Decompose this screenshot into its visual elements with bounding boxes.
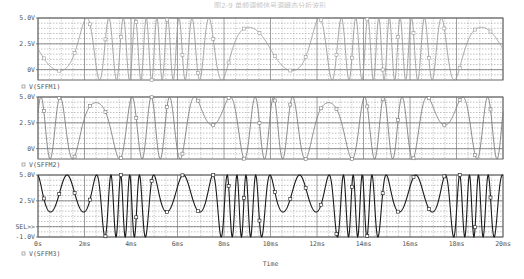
trace-marker xyxy=(73,155,76,158)
trace-marker xyxy=(196,99,199,102)
y-tick-label: SEL>> xyxy=(15,223,35,231)
trace-marker xyxy=(181,53,184,56)
x-tick-label: 6ms xyxy=(172,240,184,248)
trace-marker xyxy=(89,105,92,108)
trace-marker xyxy=(258,122,261,125)
trace-marker xyxy=(489,108,492,111)
y-tick-label: 5.0V xyxy=(19,14,35,22)
trace-marker xyxy=(458,99,461,102)
trace-marker xyxy=(243,157,246,160)
trace-marker xyxy=(397,119,400,122)
trace-marker xyxy=(273,99,276,102)
trace-marker xyxy=(304,157,307,160)
trace-marker xyxy=(42,109,45,112)
trace-marker xyxy=(427,207,430,210)
x-tick-label: 12ms xyxy=(309,240,325,248)
trace-marker xyxy=(381,68,384,71)
x-tick-label: 20ms xyxy=(495,240,511,248)
trace-marker xyxy=(335,53,338,56)
trace-marker xyxy=(397,210,400,213)
trace-marker xyxy=(289,103,292,106)
y-tick-label: 2.5V xyxy=(19,40,35,48)
trace-marker xyxy=(119,156,122,159)
trace-marker xyxy=(320,203,323,206)
legend-label[interactable]: V(SFFM1) xyxy=(29,83,60,91)
trace-marker xyxy=(104,38,107,41)
trace-marker xyxy=(150,96,153,99)
trace-marker xyxy=(89,23,92,26)
trace-marker xyxy=(381,192,384,195)
trace-marker xyxy=(135,20,138,23)
trace-marker xyxy=(258,31,261,34)
legend-marker-icon xyxy=(22,252,25,255)
y-tick-label: 5.0V xyxy=(19,93,35,101)
trace-marker xyxy=(181,152,184,155)
trace-marker xyxy=(350,157,353,160)
trace-marker xyxy=(350,185,353,188)
trace-marker xyxy=(320,18,323,21)
trace-marker xyxy=(412,157,415,160)
trace-marker xyxy=(243,27,246,30)
trace-marker xyxy=(427,57,430,60)
x-tick-label: 4ms xyxy=(125,240,137,248)
x-tick-label: 16ms xyxy=(402,240,418,248)
trace-marker xyxy=(227,61,230,64)
trace-marker xyxy=(489,30,492,33)
trace-marker xyxy=(119,174,122,177)
trace-marker xyxy=(397,35,400,38)
legend-label[interactable]: V(SFFM3) xyxy=(29,250,60,258)
trace-marker xyxy=(104,235,107,238)
trace-marker xyxy=(135,117,138,120)
trace-marker xyxy=(212,124,215,127)
trace-marker xyxy=(58,192,61,195)
trace-marker xyxy=(89,198,92,201)
trace-marker xyxy=(304,186,307,189)
trace-marker xyxy=(73,191,76,194)
trace-marker xyxy=(258,219,261,222)
trace-marker xyxy=(412,176,415,179)
x-tick-label: 10ms xyxy=(263,240,279,248)
x-tick-label: 8ms xyxy=(218,240,230,248)
trace-marker xyxy=(273,55,276,58)
x-tick-label: 2ms xyxy=(79,240,91,248)
trace-marker xyxy=(166,18,169,21)
trace-marker xyxy=(243,196,246,199)
trace-marker xyxy=(458,66,461,69)
x-tick-label: 14ms xyxy=(356,240,372,248)
trace-marker xyxy=(304,55,307,58)
trace-marker xyxy=(366,234,369,237)
trace-marker xyxy=(335,107,338,110)
trace-marker xyxy=(150,180,153,183)
trace-marker xyxy=(474,28,477,31)
trace-marker xyxy=(212,37,215,40)
trace-marker xyxy=(427,97,430,100)
trace-marker xyxy=(289,197,292,200)
trace-marker xyxy=(166,211,169,214)
trace-marker xyxy=(73,52,76,55)
trace-marker xyxy=(196,209,199,212)
trace-marker xyxy=(289,69,292,72)
trace-marker xyxy=(104,110,107,113)
legend-label[interactable]: V(SFFM2) xyxy=(29,161,60,169)
trace-marker xyxy=(335,232,338,235)
trace-marker xyxy=(474,153,477,156)
trace-marker xyxy=(366,18,369,21)
trace-marker xyxy=(273,191,276,194)
trace-marker xyxy=(196,71,199,74)
x-axis-label: Time xyxy=(263,260,279,268)
trace-marker xyxy=(150,78,153,81)
y-tick-label: 0V xyxy=(27,145,35,153)
trace-marker xyxy=(443,27,446,30)
trace-marker xyxy=(350,56,353,59)
trace-marker xyxy=(135,216,138,219)
waveform-plot: 5.0V2.5V0VV(SFFM1)5.0V2.5V0VV(SFFM2)5.0V… xyxy=(0,0,524,279)
trace-marker xyxy=(212,174,215,177)
trace-marker xyxy=(366,105,369,108)
trace-marker xyxy=(443,175,446,178)
y-tick-label: 5.0V xyxy=(19,171,35,179)
y-tick-label: -1.0V xyxy=(15,233,35,241)
trace-marker xyxy=(166,106,169,109)
y-tick-label: 0V xyxy=(27,66,35,74)
trace-marker xyxy=(412,31,415,34)
legend-marker-icon xyxy=(22,163,25,166)
